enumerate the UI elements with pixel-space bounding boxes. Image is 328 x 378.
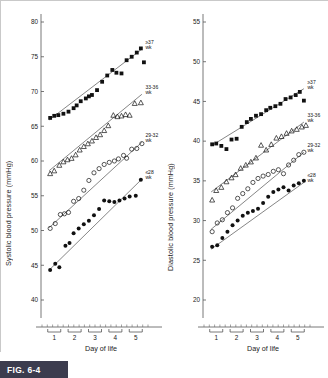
data-point — [261, 201, 265, 205]
data-point — [264, 108, 268, 112]
series-legend-unit: wk — [307, 117, 314, 123]
y-tick-label: 50 — [193, 58, 201, 65]
data-point — [214, 188, 219, 193]
data-point — [259, 143, 264, 148]
regression-line — [211, 182, 304, 249]
data-point — [48, 268, 52, 272]
data-point — [294, 93, 298, 97]
data-point — [271, 190, 275, 194]
data-point — [71, 199, 75, 203]
series-group: 33-36wk — [210, 112, 321, 202]
figure-number-label: FIG. 6-4 — [7, 365, 41, 375]
series-legend-unit: wk — [307, 147, 314, 153]
data-point — [100, 80, 104, 84]
series-group: ≥37wk — [48, 39, 154, 120]
data-point — [248, 159, 253, 164]
series-group: 33-36wk — [48, 84, 159, 175]
series-legend-unit: wk — [145, 44, 152, 50]
data-point — [219, 144, 223, 148]
data-point — [107, 199, 111, 203]
data-point — [230, 138, 234, 142]
data-point — [127, 113, 132, 118]
data-point — [215, 243, 219, 247]
x-group-bracket — [89, 329, 102, 332]
y-tick-label: 25 — [193, 257, 201, 264]
data-point — [289, 128, 294, 133]
data-point — [87, 219, 91, 223]
data-point — [112, 200, 116, 204]
y-tick-label: 35 — [193, 177, 201, 184]
data-point — [279, 102, 283, 106]
y-tick-label: 40 — [193, 137, 201, 144]
data-point — [235, 137, 239, 141]
data-point — [68, 241, 72, 245]
x-tick-label: 5 — [134, 334, 138, 341]
data-point — [241, 214, 245, 218]
x-group-bracket — [291, 329, 304, 332]
data-point — [134, 194, 138, 198]
data-point — [138, 100, 143, 105]
data-point — [82, 222, 86, 226]
data-point — [281, 172, 285, 176]
data-point — [298, 90, 302, 94]
data-point — [236, 219, 240, 223]
x-group-bracket — [210, 329, 223, 332]
data-point — [79, 99, 83, 103]
series-legend-unit: wk — [307, 84, 314, 90]
x-tick-label: 2 — [235, 334, 239, 341]
series-legend-unit: wk — [145, 174, 152, 180]
y-tick-label: 20 — [193, 296, 201, 303]
diastolic-panel: Diastolic blood pressure (mmHg) Day of l… — [162, 0, 328, 352]
x-tick-label: 2 — [73, 334, 77, 341]
data-point — [63, 244, 67, 248]
data-point — [253, 155, 258, 160]
data-point — [241, 191, 245, 195]
figure-number-badge: FIG. 6-4 — [0, 361, 68, 378]
y-tick-label: 65 — [31, 123, 39, 130]
data-point — [292, 158, 296, 162]
systolic-panel: Systolic blood pressure (mmHg) Day of li… — [0, 0, 166, 352]
data-point — [94, 135, 99, 140]
data-point — [72, 231, 76, 235]
data-point — [268, 106, 272, 110]
x-tick-label: 4 — [276, 334, 280, 341]
data-point — [210, 197, 215, 202]
data-point — [256, 176, 260, 180]
data-point — [110, 68, 114, 72]
x-group-bracket — [251, 329, 264, 332]
x-group-bracket — [48, 329, 61, 332]
data-point — [225, 147, 229, 151]
y-tick-label: 55 — [193, 18, 201, 25]
data-point — [302, 150, 306, 154]
data-point — [245, 120, 249, 124]
data-point — [210, 230, 214, 234]
y-tick-label: 70 — [31, 88, 39, 95]
data-point — [236, 196, 240, 200]
data-point — [125, 58, 129, 62]
data-point — [225, 211, 229, 215]
data-point — [303, 123, 308, 128]
data-point — [123, 112, 128, 117]
data-point — [58, 212, 62, 216]
data-point — [240, 125, 244, 129]
data-point — [210, 245, 214, 249]
data-point — [92, 213, 96, 217]
data-point — [230, 206, 234, 210]
data-point — [276, 168, 280, 172]
data-point — [92, 171, 96, 175]
series-group: 29-32wk — [210, 142, 320, 234]
data-point — [107, 160, 111, 164]
data-point — [273, 104, 277, 108]
data-point — [220, 236, 224, 240]
data-point — [142, 60, 146, 64]
x-tick-label: 3 — [93, 334, 97, 341]
figure-6-4: Systolic blood pressure (mmHg) Day of li… — [0, 0, 328, 378]
x-tick-label: 1 — [214, 334, 218, 341]
data-point — [251, 180, 255, 184]
data-point — [52, 114, 56, 118]
data-point — [102, 162, 106, 166]
data-point — [130, 147, 134, 151]
data-point — [225, 230, 229, 234]
data-point — [139, 47, 143, 51]
data-point — [246, 211, 250, 215]
